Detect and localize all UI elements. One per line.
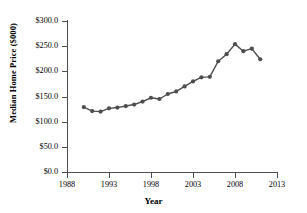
- data-point-marker: [90, 109, 94, 113]
- data-point-marker: [183, 84, 187, 88]
- data-point-marker: [99, 110, 103, 114]
- data-point-marker: [199, 75, 203, 79]
- series-markers: [82, 42, 263, 114]
- median-home-price-chart: Median Home Price ($000) $0.0$50.0$100.0…: [0, 0, 307, 213]
- x-axis-title: Year: [0, 196, 307, 206]
- data-point-marker: [149, 96, 153, 100]
- data-point-marker: [107, 106, 111, 110]
- data-point-marker: [157, 97, 161, 101]
- data-point-marker: [174, 89, 178, 93]
- data-point-marker: [115, 105, 119, 109]
- data-point-marker: [166, 92, 170, 96]
- series-polyline: [84, 44, 260, 111]
- data-point-marker: [141, 99, 145, 103]
- data-point-marker: [191, 79, 195, 83]
- data-point-marker: [132, 102, 136, 106]
- data-series-line: [0, 0, 307, 213]
- data-point-marker: [258, 57, 262, 61]
- data-point-marker: [82, 105, 86, 109]
- data-point-marker: [241, 49, 245, 53]
- data-point-marker: [208, 75, 212, 79]
- data-point-marker: [225, 52, 229, 56]
- data-point-marker: [233, 42, 237, 46]
- data-point-marker: [216, 59, 220, 63]
- data-point-marker: [124, 104, 128, 108]
- data-point-marker: [250, 47, 254, 51]
